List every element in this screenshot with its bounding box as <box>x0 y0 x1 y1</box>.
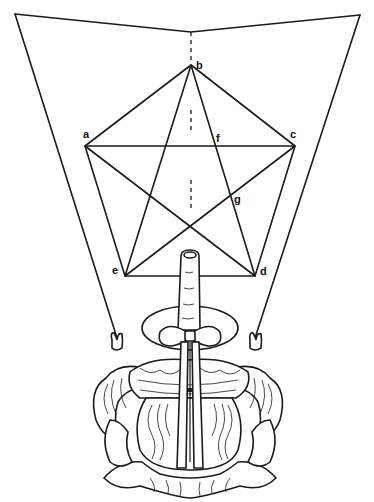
pentagram <box>85 65 295 276</box>
label-d: d <box>260 265 267 277</box>
ornament-vessel <box>94 250 283 498</box>
pentagram-diagram: b a c f g e d <box>0 0 374 502</box>
finger-column <box>178 250 200 330</box>
label-g: g <box>234 193 241 205</box>
label-b: b <box>196 59 203 71</box>
label-f: f <box>216 132 220 144</box>
label-a: a <box>83 128 90 140</box>
label-c: c <box>290 128 296 140</box>
label-e: e <box>112 264 118 276</box>
